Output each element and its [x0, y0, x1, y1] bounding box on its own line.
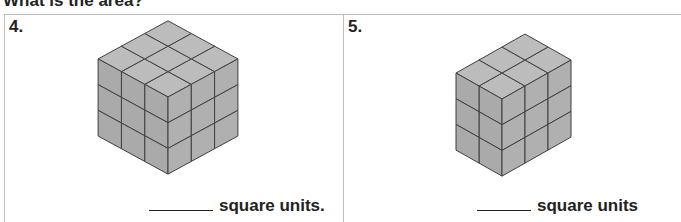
problem-5-cube-figure [456, 34, 571, 176]
problem-5-answer-blank[interactable] [477, 209, 531, 211]
cube-figures [0, 0, 681, 222]
problem-4-answer: square units. [149, 196, 325, 216]
problem-5-answer-label: square units [537, 196, 638, 215]
problem-4-answer-label: square units. [219, 196, 325, 215]
problem-4-cube-figure [98, 21, 238, 174]
problem-4-answer-blank[interactable] [149, 209, 213, 211]
problem-5-answer: square units [477, 196, 638, 216]
